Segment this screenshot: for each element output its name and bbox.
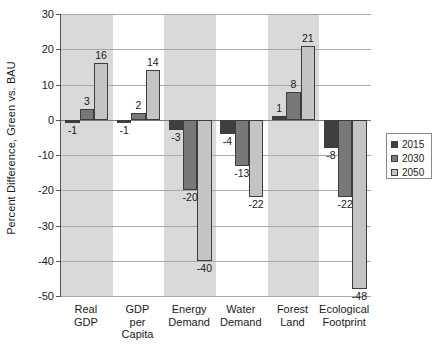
- y-tick-label: -10: [26, 150, 54, 161]
- legend-item[interactable]: 2015: [391, 138, 428, 151]
- bar: [183, 120, 197, 191]
- bar: [220, 120, 234, 134]
- legend-item[interactable]: 2030: [391, 152, 428, 165]
- x-category-label: Ecological Footprint: [312, 303, 376, 328]
- bar-value-label: -40: [190, 263, 218, 274]
- bar: [146, 70, 160, 119]
- bar: [80, 109, 94, 120]
- gridline: [61, 296, 371, 297]
- plot-area: -1316-1214-3-20-40-4-13-221821-8-22-48: [60, 14, 371, 297]
- y-tick-label: -20: [26, 185, 54, 196]
- y-axis-title: Percent Difference, Green vs. BAU: [0, 0, 22, 296]
- legend: 201520302050: [386, 133, 432, 179]
- bar-value-label: 1: [265, 103, 293, 114]
- bar-value-label: 21: [294, 33, 322, 44]
- legend-label: 2050: [402, 168, 424, 178]
- y-tick-label: -50: [26, 291, 54, 302]
- bar-value-label: -13: [228, 168, 256, 179]
- bar-value-label: -8: [317, 150, 345, 161]
- bar-value-label: -20: [176, 192, 204, 203]
- bar: [131, 113, 145, 120]
- bar-value-label: -22: [242, 199, 270, 210]
- bar: [94, 63, 108, 119]
- legend-label: 2015: [402, 140, 424, 150]
- legend-swatch-icon: [391, 155, 398, 162]
- bar-value-label: -1: [58, 125, 86, 136]
- y-tick-label: -30: [26, 221, 54, 232]
- bar: [249, 120, 263, 198]
- gridline: [61, 14, 371, 15]
- bar: [169, 120, 183, 131]
- y-tick-label: -40: [26, 256, 54, 267]
- bar: [324, 120, 338, 148]
- bar: [272, 116, 286, 120]
- chart-figure: Percent Difference, Green vs. BAU 302010…: [0, 0, 440, 353]
- legend-swatch-icon: [391, 169, 398, 176]
- bar: [117, 120, 131, 124]
- bar: [65, 120, 79, 124]
- bar: [197, 120, 211, 261]
- bar-value-label: 2: [124, 100, 152, 111]
- bar-value-label: 8: [279, 79, 307, 90]
- bar-value-label: 16: [87, 50, 115, 61]
- y-tick-label: 0: [26, 115, 54, 126]
- legend-label: 2030: [402, 154, 424, 164]
- bar-value-label: -48: [345, 291, 373, 302]
- legend-swatch-icon: [391, 141, 398, 148]
- gridline: [61, 226, 371, 227]
- bar-value-label: -4: [213, 136, 241, 147]
- bar-value-label: 14: [139, 57, 167, 68]
- bar-value-label: -22: [331, 199, 359, 210]
- gridline: [61, 190, 371, 191]
- legend-item[interactable]: 2050: [391, 166, 428, 179]
- y-tick-label: 30: [26, 9, 54, 20]
- y-tick-label: 10: [26, 80, 54, 91]
- y-tick-label: 20: [26, 44, 54, 55]
- bar-value-label: -1: [110, 125, 138, 136]
- bar-value-label: 3: [73, 96, 101, 107]
- bar-value-label: -3: [162, 132, 190, 143]
